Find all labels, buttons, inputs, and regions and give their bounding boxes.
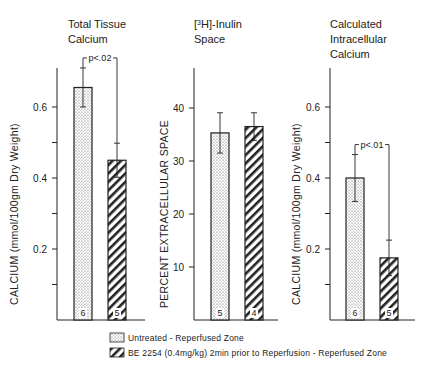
panel-title: Calculated <box>330 18 382 30</box>
panel-title: [3H]-Inulin <box>194 18 242 30</box>
legend: Untreated - Reperfused Zone BE 2254 (0.4… <box>110 333 387 358</box>
bar-be2254 <box>245 127 263 320</box>
y-tick-label: 20 <box>173 209 185 220</box>
n-label: 6 <box>80 308 85 318</box>
n-label: 4 <box>251 308 256 318</box>
n-label: 5 <box>386 308 391 318</box>
panel-title: Calcium <box>68 33 108 45</box>
n-label: 5 <box>114 308 119 318</box>
y-tick-label: 0.4 <box>306 173 320 184</box>
n-label: 6 <box>352 308 357 318</box>
legend-label-untreated: Untreated - Reperfused Zone <box>128 333 244 343</box>
legend-swatch-be2254 <box>110 348 124 357</box>
y-tick-label: 0.4 <box>33 173 47 184</box>
panel-title: Intracellular <box>330 33 387 45</box>
bar-untreated <box>211 133 229 320</box>
panel-title: Calcium <box>330 48 370 60</box>
panel-1: Total TissueCalcium0.20.40.6CALCIUM (mmo… <box>8 18 145 320</box>
panel-title: Total Tissue <box>68 18 126 30</box>
n-label: 5 <box>217 308 222 318</box>
legend-label-be2254: BE 2254 (0.4mg/kg) 2min prior to Reperfu… <box>128 348 387 358</box>
figure: Total TissueCalcium0.20.40.6CALCIUM (mmo… <box>0 0 436 370</box>
y-axis-label: CALCIUM (mmol/100gm Dry Weight) <box>8 123 20 305</box>
panel-2: [3H]-InulinSpace10203040PERCENT EXTRACEL… <box>158 18 278 320</box>
y-axis-label: CALCIUM (mmol/100gm Dry Weight) <box>290 123 302 305</box>
legend-swatch-untreated <box>110 333 124 342</box>
y-tick-label: 10 <box>173 262 185 273</box>
bar-untreated <box>74 87 92 320</box>
panel-3: CalculatedIntracellularCalcium0.20.40.6C… <box>290 18 415 320</box>
bar-be2254 <box>108 160 126 320</box>
significance-label: p<.01 <box>361 140 384 150</box>
y-tick-label: 0.2 <box>33 244 47 255</box>
y-tick-label: 0.6 <box>33 102 47 113</box>
y-axis-label: PERCENT EXTRACELLULAR SPACE <box>158 120 170 308</box>
y-tick-label: 30 <box>173 156 185 167</box>
y-tick-label: 0.2 <box>306 244 320 255</box>
y-tick-label: 0.6 <box>306 102 320 113</box>
panel-title: Space <box>194 33 225 45</box>
significance-label: p<.02 <box>89 53 112 63</box>
y-tick-label: 40 <box>173 103 185 114</box>
